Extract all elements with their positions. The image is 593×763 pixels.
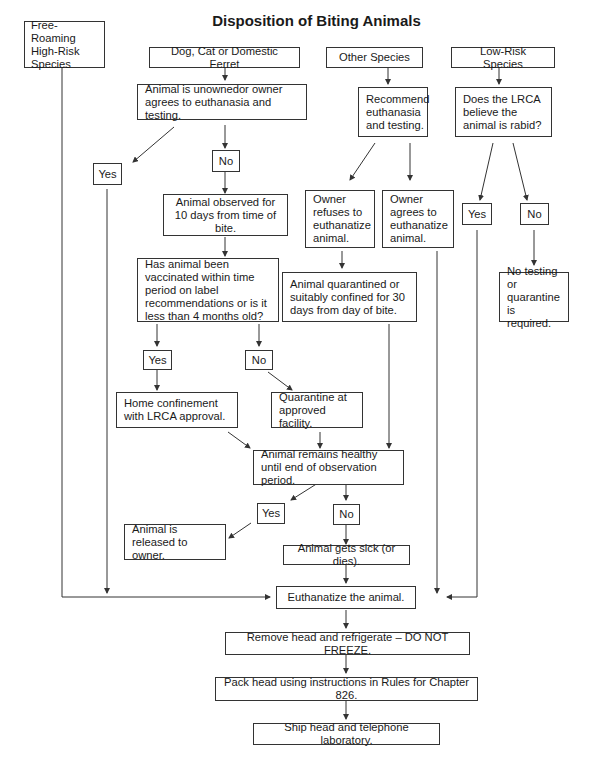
- node-released-to-owner: Animal is released to owner.: [124, 524, 226, 560]
- node-other-species: Other Species: [326, 47, 423, 68]
- node-euthanatize: Euthanatize the animal.: [276, 586, 416, 609]
- node-quarantined-30-days: Animal quarantined or suitably confined …: [282, 272, 417, 322]
- node-no-vaccinated: No: [245, 350, 273, 370]
- node-yes-unowned: Yes: [93, 163, 122, 185]
- node-no-testing-required: No testing or quarantine is required.: [499, 272, 569, 322]
- node-observed-10-days: Animal observed for 10 days from time of…: [163, 194, 288, 236]
- node-remains-healthy: Animal remains healthy until end of obse…: [253, 450, 404, 485]
- node-pack-head: Pack head using instructions in Rules fo…: [215, 677, 478, 701]
- node-lrca-believes-rabid: Does the LRCA believe the animal is rabi…: [455, 87, 552, 137]
- node-low-risk-species: Low-Risk Species: [451, 47, 555, 68]
- node-yes-lrca: Yes: [462, 203, 492, 225]
- node-owner-agrees: Owner agrees to euthanatize animal.: [382, 190, 454, 248]
- node-remove-head: Remove head and refrigerate – DO NOT FRE…: [225, 632, 470, 655]
- node-ship-head: Ship head and telephone laboratory.: [253, 723, 440, 745]
- node-vaccinated-question: Has animal been vaccinated within time p…: [137, 258, 279, 322]
- node-no-unowned: No: [212, 150, 240, 172]
- node-home-confinement: Home confinement with LRCA approval.: [116, 392, 238, 428]
- node-recommend-euthanasia: Recommend euthanasia and testing.: [358, 87, 428, 137]
- node-owner-refuses: Owner refuses to euthanatize animal.: [305, 190, 375, 248]
- node-dog-cat-ferret: Dog, Cat or Domestic Ferret: [149, 47, 300, 68]
- node-quarantine-facility: Quarantine at approved facility.: [271, 392, 363, 428]
- node-no-lrca: No: [520, 203, 549, 225]
- node-yes-healthy: Yes: [257, 503, 285, 524]
- node-yes-vaccinated: Yes: [143, 350, 172, 370]
- node-unowned-owner-agrees: Animal is unownedor owner agrees to euth…: [137, 84, 307, 120]
- node-free-roaming: Free-Roaming High-Risk Species: [24, 21, 105, 68]
- node-gets-sick: Animal gets sick (or dies).: [283, 545, 410, 565]
- node-no-healthy: No: [333, 504, 360, 525]
